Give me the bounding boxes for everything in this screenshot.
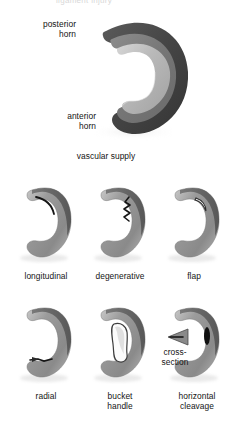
- caption-vascular-supply: vascular supply: [51, 152, 161, 162]
- tear-horizontal-slit: [204, 327, 210, 345]
- caption-bucket-handle: bucket handle: [79, 392, 161, 411]
- meniscus-tear-figure: ligament injury: [0, 0, 242, 425]
- caption-longitudinal: longitudinal: [5, 272, 87, 282]
- label-posterior-horn: posterior horn: [14, 20, 76, 39]
- meniscus-horizontal-cleavage-tear: [162, 304, 232, 384]
- caption-flap: flap: [153, 272, 235, 282]
- caption-horizontal-cleavage: horizontal cleavage: [155, 392, 239, 411]
- caption-radial: radial: [5, 392, 87, 402]
- meniscus-longitudinal-tear: [14, 184, 78, 264]
- meniscus-radial-tear: [14, 304, 78, 384]
- cut-off-header-text: ligament injury: [56, 0, 112, 5]
- caption-degenerative: degenerative: [79, 272, 161, 282]
- meniscus-bucket-handle-tear: [88, 304, 152, 384]
- label-anterior-horn: anterior horn: [34, 112, 96, 131]
- meniscus-flap-tear: [162, 184, 226, 264]
- annotation-cross-section: cross- section: [152, 348, 198, 367]
- meniscus-degenerative-tear: [88, 184, 152, 264]
